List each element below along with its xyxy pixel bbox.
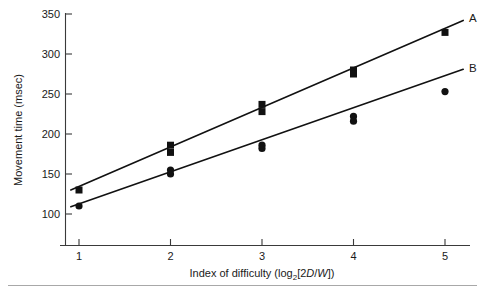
data-point <box>167 142 174 149</box>
data-point <box>259 101 266 108</box>
y-tick-label-300: 300 <box>42 48 60 60</box>
series-a-markers <box>76 29 449 194</box>
y-tick-label-150: 150 <box>42 168 60 180</box>
fit-line-series-b <box>71 69 463 207</box>
x-axis-title-var-d: D <box>306 267 314 279</box>
x-axis-ticks <box>79 239 445 246</box>
data-point <box>76 187 83 194</box>
data-point <box>167 149 174 156</box>
data-point <box>350 118 357 125</box>
x-tick-label-5: 5 <box>442 250 448 262</box>
data-point <box>441 88 448 95</box>
data-point <box>259 108 266 115</box>
y-axis-title: Movement time (msec) <box>12 74 24 186</box>
x-axis-title-bracket-close: ]) <box>328 267 335 279</box>
data-point <box>350 71 357 78</box>
y-tick-label-250: 250 <box>42 88 60 100</box>
x-tick-label-3: 3 <box>259 250 265 262</box>
figure-container: 350 300 250 200 150 100 1 2 3 4 5 Index … <box>0 0 485 292</box>
data-point <box>75 202 82 209</box>
fit-line-series-a <box>71 20 463 190</box>
y-axis-tick-labels: 350 300 250 200 150 100 <box>42 8 60 220</box>
series-label-a: A <box>469 12 477 24</box>
x-axis-title-bracket-open: [2 <box>297 267 306 279</box>
y-tick-label-200: 200 <box>42 128 60 140</box>
x-axis-tick-labels: 1 2 3 4 5 <box>76 250 448 262</box>
axes-group <box>60 13 470 246</box>
scatter-plot: 350 300 250 200 150 100 1 2 3 4 5 Index … <box>0 0 485 292</box>
x-tick-label-4: 4 <box>350 250 356 262</box>
data-point <box>442 29 449 36</box>
x-tick-label-1: 1 <box>76 250 82 262</box>
series-label-b: B <box>469 62 477 74</box>
data-point <box>258 145 265 152</box>
x-tick-label-2: 2 <box>167 250 173 262</box>
data-point <box>167 170 174 177</box>
x-axis-title: Index of difficulty (log2[2D/W]) <box>190 267 335 282</box>
x-axis-title-prefix: Index of difficulty (log <box>190 267 293 279</box>
y-tick-label-100: 100 <box>42 208 60 220</box>
y-axis-ticks <box>66 14 73 214</box>
y-tick-label-350: 350 <box>42 8 60 20</box>
